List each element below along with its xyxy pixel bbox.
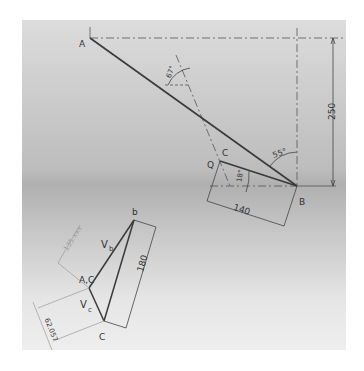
vector-vc	[89, 288, 104, 321]
dimension-62057-label: 62.057	[43, 317, 60, 343]
link-AB	[90, 38, 297, 186]
point-b-label: b	[132, 207, 138, 217]
dimension-180-label: 180	[135, 253, 150, 273]
vc-subscript: c	[88, 306, 92, 314]
point-AC-label: A,C	[79, 275, 94, 285]
angle-18-arc	[246, 170, 249, 192]
point-A-label: A	[79, 39, 86, 49]
link-CB	[220, 161, 297, 186]
vector-vb	[89, 220, 134, 288]
angle-18-label: 18°	[235, 169, 245, 183]
mechanism-diagram: 250 140 55° 18° 67° A B C Q	[0, 0, 364, 371]
vb-label: V	[101, 239, 108, 250]
vb-subscript: b	[109, 245, 114, 253]
dimension-250-label: 250	[327, 103, 337, 120]
point-B-label: B	[299, 197, 305, 207]
vector-bc	[104, 220, 134, 321]
vc-label: V	[80, 299, 87, 310]
dimension-140-label: 140	[232, 202, 252, 217]
point-c-label: C	[99, 332, 105, 342]
construction-lines	[90, 28, 346, 186]
angle-67-label: 67°	[165, 65, 177, 79]
angle-55-label: 55°	[271, 146, 287, 159]
dimension-vb-faint-label: 135.xxx	[62, 225, 84, 253]
point-C-label: C	[222, 148, 228, 158]
point-Q-label: Q	[207, 160, 214, 170]
